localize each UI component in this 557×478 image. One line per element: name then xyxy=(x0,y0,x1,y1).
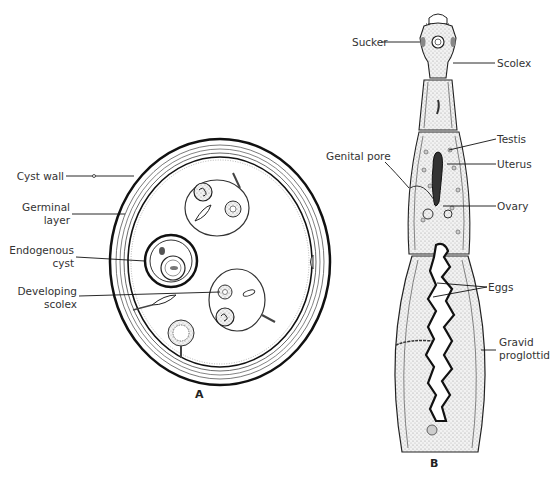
label-testis: Testis xyxy=(497,133,526,145)
label-developing-scolex-line1: Developing xyxy=(4,285,77,297)
label-eggs: Eggs xyxy=(488,281,513,293)
label-germinal-layer-line1: Germinal xyxy=(8,201,70,213)
label-endogenous-cyst-line2: cyst xyxy=(4,257,74,269)
endogenous-cyst xyxy=(145,235,197,287)
label-ovary: Ovary xyxy=(497,200,528,212)
panel-letter-b: B xyxy=(430,457,438,470)
label-gravid-proglottid-line2: proglottid xyxy=(499,349,550,361)
label-gravid-proglottid-line1: Gravid xyxy=(499,336,534,348)
diagram-canvas xyxy=(0,0,557,478)
label-uterus: Uterus xyxy=(497,158,532,170)
label-endogenous-cyst-line1: Endogenous xyxy=(4,244,74,256)
label-genital-pore: Genital pore xyxy=(326,150,391,162)
label-developing-scolex-line2: scolex xyxy=(4,298,77,310)
label-germinal-layer-line2: layer xyxy=(8,214,70,226)
label-scolex: Scolex xyxy=(497,57,531,69)
label-sucker: Sucker xyxy=(352,36,388,48)
adult-tapeworm xyxy=(381,14,496,452)
panel-letter-a: A xyxy=(195,388,204,401)
label-cyst-wall: Cyst wall xyxy=(8,170,64,182)
hydatid-cyst xyxy=(66,139,330,385)
